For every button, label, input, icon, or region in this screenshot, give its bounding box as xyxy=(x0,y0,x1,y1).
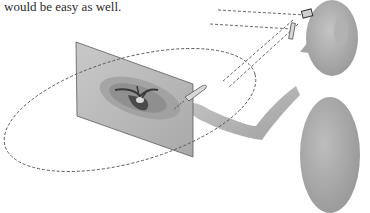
tracker-marker xyxy=(289,23,296,39)
nose-shape xyxy=(300,42,309,53)
tracking-diagram xyxy=(0,0,370,213)
ear-shape xyxy=(334,18,348,46)
dashed-sight-lines xyxy=(210,10,305,88)
arm-shape xyxy=(186,86,300,140)
body-shape xyxy=(300,97,360,213)
head-shape xyxy=(306,0,358,76)
